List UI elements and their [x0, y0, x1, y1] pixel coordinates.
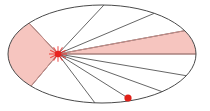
- boundary-dot-marker: [124, 94, 131, 101]
- figure-canvas: [0, 0, 210, 111]
- ellipse-diagram: [0, 0, 210, 111]
- apex-star-core: [55, 51, 61, 57]
